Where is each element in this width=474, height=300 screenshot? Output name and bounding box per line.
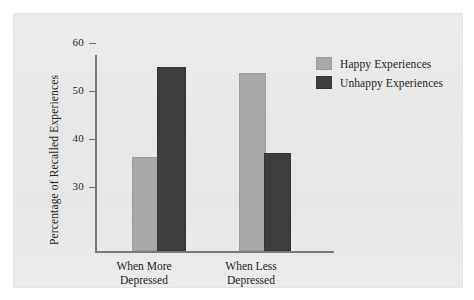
y-tick-mark-60	[89, 43, 96, 44]
x-category-label-1: When Less Depressed	[186, 259, 316, 287]
y-tick-30: 30	[14, 187, 96, 188]
bar-unhappy-when-more-depressed[interactable]	[157, 67, 186, 251]
y-tick-label-60: 60	[62, 36, 84, 48]
y-tick-50: 50	[14, 91, 96, 92]
legend-swatch-unhappy-icon	[316, 76, 332, 89]
y-tick-label-40: 40	[62, 132, 84, 144]
legend-item-happy[interactable]: Happy Experiences	[316, 55, 466, 72]
figure-canvas: Percentage of Recalled Experiences 60 50…	[0, 0, 474, 300]
chart-plate: Percentage of Recalled Experiences 60 50…	[14, 14, 462, 287]
legend-swatch-happy-icon	[316, 57, 332, 70]
legend-label-happy: Happy Experiences	[340, 58, 431, 70]
legend-label-unhappy: Unhappy Experiences	[340, 77, 443, 89]
x-category-label-1-line-1: When Less	[186, 259, 316, 273]
chart-legend: Happy Experiences Unhappy Experiences	[316, 55, 466, 93]
bar-happy-when-less-depressed[interactable]	[239, 73, 266, 251]
bar-unhappy-when-less-depressed[interactable]	[264, 153, 291, 251]
y-tick-40: 40	[14, 139, 96, 140]
legend-item-unhappy[interactable]: Unhappy Experiences	[316, 74, 466, 91]
plot-area	[97, 55, 334, 251]
y-tick-label-50: 50	[62, 84, 84, 96]
y-axis-title: Percentage of Recalled Experiences	[48, 60, 60, 260]
x-axis-line	[95, 251, 334, 253]
bar-happy-when-more-depressed[interactable]	[132, 157, 159, 251]
y-tick-60: 60	[14, 43, 96, 44]
y-tick-label-30: 30	[62, 180, 84, 192]
x-category-label-1-line-2: Depressed	[186, 273, 316, 287]
